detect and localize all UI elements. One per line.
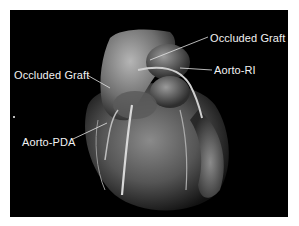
label-occluded-graft-left: Occluded Graft	[14, 69, 89, 81]
label-aorto-ri: Aorto-RI	[214, 64, 256, 76]
marker-dot	[13, 116, 15, 118]
label-occluded-graft-top: Occluded Graft	[210, 32, 285, 44]
base-shape	[113, 91, 157, 119]
label-aorto-pda: Aorto-PDA	[22, 136, 75, 148]
atrium-shape	[146, 44, 190, 80]
